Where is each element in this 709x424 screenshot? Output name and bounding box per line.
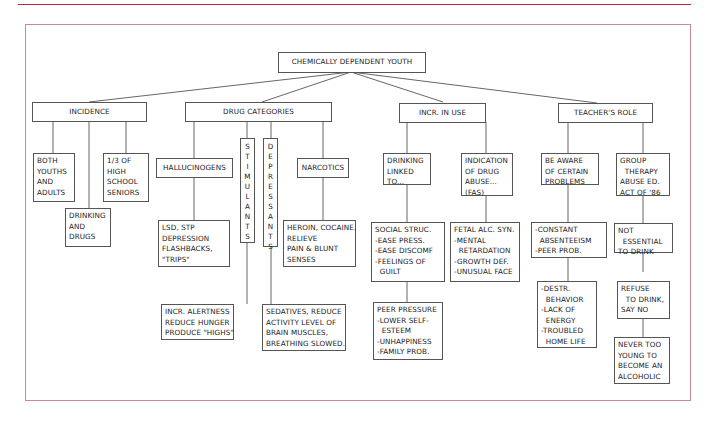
social-structure-detail: SOCIAL STRUC. -EASE PRESS. -EASE DISCOMF… — [371, 222, 445, 282]
destructive-behavior-detail: -DESTR. BEHAVIOR -LACK OF ENERGY -TROUBL… — [537, 281, 597, 348]
stimulants-node: STIMULANTS — [240, 138, 255, 243]
narcotics-detail: HEROIN, COCAINE. RELIEVE PAIN & BLUNT SE… — [283, 220, 356, 267]
fetal-alcohol-syndrome-detail: FETAL ALC. SYN. -MENTAL RETARDATION -GRO… — [450, 222, 520, 282]
be-aware-node: BE AWARE OF CERTAIN PROBLEMS — [541, 153, 599, 185]
drinking-linked-node: DRINKING LINKED TO... — [383, 153, 431, 185]
teachers-role-node: TEACHER'S ROLE — [558, 103, 653, 123]
narcotics-node: NARCOTICS — [297, 158, 349, 178]
refuse-to-drink-node: REFUSE TO DRINK, SAY NO — [617, 281, 670, 319]
stimulants-detail: INCR. ALERTNESS REDUCE HUNGER PRODUCE "H… — [161, 304, 234, 340]
incidence-node: INCIDENCE — [32, 102, 147, 122]
absenteeism-detail: -CONSTANT ABSENTEEISM -PEER PROB. — [531, 222, 607, 258]
incidence-high-school-seniors: 1/3 OF HIGH SCHOOL SENIORS — [103, 153, 149, 202]
incidence-drinking-and-drugs: DRINKING AND DRUGS — [65, 208, 111, 247]
indication-of-drug-abuse-node: INDICATION OF DRUG ABUSE... (FAS) — [461, 153, 513, 196]
root-node: CHEMICALLY DEPENDENT YOUTH — [278, 52, 426, 73]
depressants-node: DEPRESSANTS — [263, 138, 278, 247]
hallucinogens-node: HALLUCINOGENS — [156, 158, 233, 178]
never-too-young-node: NEVER TOO YOUNG TO BECOME AN ALCOHOLIC — [614, 337, 670, 384]
hallucinogens-detail: LSD, STP DEPRESSION FLASHBACKS, "TRIPS" — [158, 220, 230, 267]
incidence-both-youths-adults: BOTH YOUTHS AND ADULTS — [33, 153, 75, 202]
peer-pressure-detail: PEER PRESSURE -LOWER SELF- ESTEEM -UNHAP… — [373, 302, 443, 360]
depressants-detail: SEDATIVES, REDUCE ACTIVITY LEVEL OF BRAI… — [262, 304, 346, 351]
incr-in-use-node: INCR. IN USE — [399, 103, 486, 123]
group-therapy-node: GROUP THERAPY ABUSE ED. ACT OF '86 — [616, 153, 670, 196]
drug-categories-node: DRUG CATEGORIES — [185, 102, 332, 122]
not-essential-node: NOT ESSENTIAL TO DRINK — [614, 223, 673, 253]
